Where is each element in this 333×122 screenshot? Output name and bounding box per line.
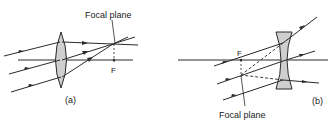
ray-b-bot-in [223, 80, 283, 100]
ray-a-mid-in [9, 60, 60, 74]
focal-plane-leader-b [241, 76, 245, 106]
virtual-ray-top [241, 43, 283, 75]
ray-b-mid-in [217, 61, 283, 84]
arrow-icon [299, 54, 305, 57]
panel-label-b: (b) [312, 96, 323, 106]
converging-lens [56, 32, 67, 88]
focal-plane-leader-a [112, 20, 115, 43]
focal-plane-label-a: Focal plane [85, 10, 132, 20]
focal-point-label-a: F [111, 66, 116, 75]
lens-diagram: Focal plane F (a) F Focal plane [0, 0, 333, 122]
panel-label-a: (a) [65, 95, 76, 105]
ray-b-top-out [283, 17, 317, 43]
virtual-ray-bot [241, 75, 283, 80]
ray-a-top-in [4, 42, 60, 56]
arrow-icon [82, 41, 88, 45]
panel-b: F Focal plane (b) [178, 17, 328, 120]
ray-a-mid-out [62, 37, 135, 60]
focal-point-label-b: F [237, 49, 242, 58]
ray-a-bot-in [11, 77, 61, 92]
panel-a: Focal plane F (a) [4, 10, 138, 105]
focal-plane-label-b: Focal plane [219, 110, 266, 120]
focal-point-a [113, 59, 115, 61]
arrow-icon [299, 25, 305, 30]
ray-a-top-out [62, 42, 138, 45]
arrow-icon [302, 80, 308, 83]
focal-point-b [240, 59, 242, 61]
